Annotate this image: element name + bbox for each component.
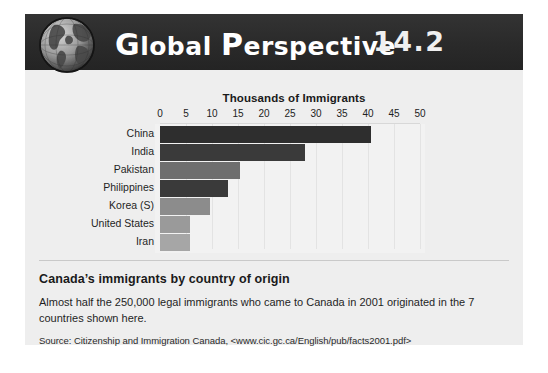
bar	[160, 162, 240, 179]
x-tick-label: 20	[254, 108, 274, 119]
bar	[160, 198, 210, 215]
bar-row: Philippines	[160, 180, 228, 197]
bar-row: Iran	[160, 234, 190, 251]
bar-category-label: Pakistan	[114, 163, 154, 175]
bar-category-label: Korea (S)	[109, 199, 154, 211]
global-perspective-panel: Global Perspective 14.2	[25, 14, 523, 345]
chart-title: Thousands of Immigrants	[25, 92, 523, 104]
caption-divider	[39, 260, 509, 261]
x-tick-label: 10	[202, 108, 222, 119]
globe-icon	[38, 16, 96, 74]
x-tick-label: 35	[332, 108, 352, 119]
x-tick-label: 5	[176, 108, 196, 119]
bar	[160, 216, 190, 233]
bar-category-label: United States	[91, 217, 154, 229]
caption-block: Canada’s immigrants by country of origin…	[25, 260, 523, 346]
gridline	[420, 124, 421, 249]
x-tick-label: 15	[228, 108, 248, 119]
page-title: Global Perspective	[115, 27, 396, 62]
bar	[160, 126, 371, 143]
bar-category-label: Iran	[136, 235, 154, 247]
title-initial-p: P	[221, 27, 244, 62]
x-tick-label: 25	[280, 108, 300, 119]
bar-row: India	[160, 144, 305, 161]
chart-area: Thousands of Immigrants 0510152025303540…	[25, 70, 523, 260]
bar-row: China	[160, 126, 371, 143]
bar-category-label: Philippines	[103, 181, 154, 193]
x-tick-label: 0	[150, 108, 170, 119]
title-word-global: lobal	[140, 32, 212, 61]
bar-category-label: China	[127, 127, 154, 139]
bar-category-label: India	[131, 145, 154, 157]
title-initial-g: G	[115, 27, 140, 62]
x-tick-label: 40	[358, 108, 378, 119]
bar-row: United States	[160, 216, 190, 233]
bar	[160, 144, 305, 161]
bar-row: Pakistan	[160, 162, 240, 179]
bar-row: Korea (S)	[160, 198, 210, 215]
gridline	[394, 124, 395, 249]
bar	[160, 234, 190, 251]
section-number: 14.2	[373, 26, 446, 57]
x-tick-label: 50	[410, 108, 430, 119]
caption-source: Source: Citizenship and Immigration Cana…	[39, 335, 509, 346]
caption-body: Almost half the 250,000 legal immigrants…	[39, 295, 491, 327]
x-tick-label: 45	[384, 108, 404, 119]
header-bar: Global Perspective 14.2	[25, 14, 523, 70]
x-tick-label: 30	[306, 108, 326, 119]
caption-heading: Canada’s immigrants by country of origin	[39, 272, 509, 286]
bar	[160, 180, 228, 197]
